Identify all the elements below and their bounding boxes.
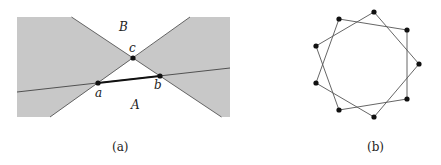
vertex — [313, 43, 318, 48]
label-c: c — [129, 41, 136, 55]
vertex — [313, 80, 318, 85]
vertex — [404, 27, 409, 32]
point-c — [130, 55, 135, 60]
segment-ab — [98, 76, 160, 83]
shaded-region-right — [133, 17, 230, 117]
point-a — [95, 80, 100, 85]
vertex — [371, 9, 376, 14]
label-A: A — [130, 98, 140, 112]
caption-b: (b) — [367, 140, 384, 154]
figure-a: B c a b A (a) — [17, 17, 230, 154]
vertex — [371, 114, 376, 119]
figure-b-star-polygon: (b) — [313, 9, 421, 154]
vertex — [404, 96, 409, 101]
vertex — [416, 61, 421, 66]
shaded-region-left — [17, 17, 133, 117]
star-polygon-edges — [316, 12, 419, 117]
vertex — [336, 16, 341, 21]
label-b: b — [154, 78, 162, 92]
vertex — [336, 107, 341, 112]
star-vertices — [313, 9, 421, 119]
label-a: a — [95, 86, 102, 100]
caption-a: (a) — [112, 140, 129, 154]
label-B: B — [118, 20, 128, 34]
figure-canvas: B c a b A (a) (b) — [0, 0, 441, 165]
